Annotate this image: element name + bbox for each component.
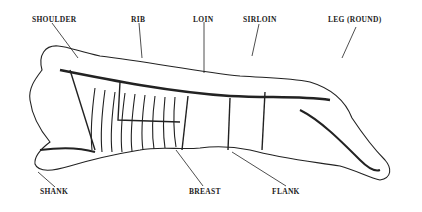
carcass-illustration xyxy=(0,0,422,212)
label-shank: SHANK xyxy=(40,187,68,196)
label-leg-round: LEG (ROUND) xyxy=(328,15,382,24)
label-breast: BREAST xyxy=(189,187,221,196)
label-loin: LOIN xyxy=(193,15,213,24)
label-rib: RIB xyxy=(131,15,145,24)
carcass-diagram: SHOULDER RIB LOIN SIRLOIN LEG (ROUND) SH… xyxy=(0,0,422,212)
label-shoulder: SHOULDER xyxy=(32,15,77,24)
label-flank: FLANK xyxy=(272,187,300,196)
label-sirloin: SIRLOIN xyxy=(243,15,277,24)
